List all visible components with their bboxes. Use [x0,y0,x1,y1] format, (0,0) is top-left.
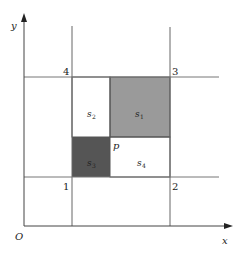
corner-label-3: 3 [172,66,178,77]
corner-label-4: 4 [63,66,69,77]
corner-label-2: 2 [172,181,178,192]
square-s1 [110,77,170,137]
square-s3 [72,137,110,177]
point-p-label: p [113,140,120,151]
svg-text:3: 3 [92,162,96,169]
svg-text:1: 1 [140,113,144,120]
svg-text:2: 2 [92,113,96,120]
quadrant-diagram: y x O 4 3 1 2 p s 1 s 2 s 3 s 4 [0,0,242,254]
y-axis-arrow-icon [21,13,27,22]
label-s4: s 4 [137,158,146,169]
y-axis-label: y [10,20,17,31]
svg-text:4: 4 [142,162,146,169]
x-axis-label: x [222,235,228,246]
square-s2 [72,77,110,137]
x-axis-arrow-icon [224,223,233,229]
origin-label: O [15,231,23,242]
label-s2: s 2 [87,109,96,120]
corner-label-1: 1 [63,181,69,192]
